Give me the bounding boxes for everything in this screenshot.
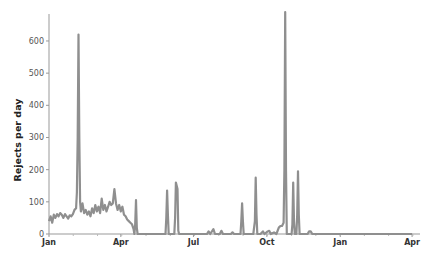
y-tick-label: 600 bbox=[29, 37, 44, 46]
y-tick-label: 400 bbox=[29, 101, 44, 110]
x-tick-label: Apr bbox=[113, 238, 129, 247]
x-tick-label: Jan bbox=[332, 238, 347, 247]
x-tick-label: Apr bbox=[404, 238, 420, 247]
y-tick-label: 200 bbox=[29, 166, 44, 175]
y-ticks: 0100200300400500600 bbox=[29, 37, 49, 239]
x-tick-label: Jul bbox=[187, 238, 200, 247]
rejects-line bbox=[49, 12, 412, 234]
y-axis-title: Rejects per day bbox=[12, 98, 23, 182]
x-tick-label: Oct bbox=[259, 238, 275, 247]
y-tick-label: 500 bbox=[29, 69, 44, 78]
y-tick-label: 300 bbox=[29, 133, 44, 142]
x-tick-label: Jan bbox=[41, 238, 56, 247]
x-ticks: JanAprJulOctJanApr bbox=[41, 234, 420, 247]
chart-canvas: Rejects per day 0100200300400500600 JanA… bbox=[0, 0, 438, 257]
y-tick-label: 100 bbox=[29, 198, 44, 207]
